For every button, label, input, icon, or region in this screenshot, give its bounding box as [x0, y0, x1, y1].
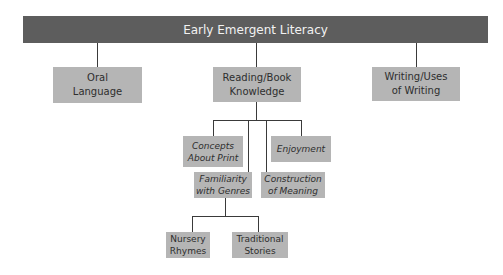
connector-to-construction — [266, 120, 267, 172]
root-node-early-emergent-literacy: Early Emergent Literacy — [23, 16, 488, 43]
connector-reading-horizontal — [213, 120, 302, 121]
connector-to-nursery — [192, 216, 193, 232]
node-reading-book-knowledge: Reading/Book Knowledge — [213, 67, 301, 102]
connector-genres-horizontal — [192, 216, 259, 217]
connector-to-enjoyment — [301, 120, 302, 136]
connector-root-reading — [256, 43, 257, 67]
node-writing-uses-of-writing: Writing/Uses of Writing — [372, 67, 460, 101]
node-construction-of-meaning: Construction of Meaning — [261, 172, 325, 198]
connector-root-writing — [416, 43, 417, 67]
connector-to-concepts — [213, 120, 214, 136]
node-familiarity-with-genres: Familiarity with Genres — [194, 172, 252, 198]
connector-to-familiarity — [248, 120, 249, 172]
connector-genres-trunk — [225, 198, 226, 216]
node-traditional-stories: Traditional Stories — [232, 232, 288, 258]
node-oral-language: Oral Language — [53, 67, 142, 103]
concept-diagram: Early Emergent Literacy Oral Language Re… — [0, 0, 503, 275]
connector-reading-trunk — [256, 102, 257, 120]
node-concepts-about-print: Concepts About Print — [183, 136, 243, 167]
connector-to-traditional — [258, 216, 259, 232]
connector-root-oral — [97, 43, 98, 67]
node-enjoyment: Enjoyment — [271, 136, 331, 162]
node-nursery-rhymes: Nursery Rhymes — [166, 232, 210, 258]
